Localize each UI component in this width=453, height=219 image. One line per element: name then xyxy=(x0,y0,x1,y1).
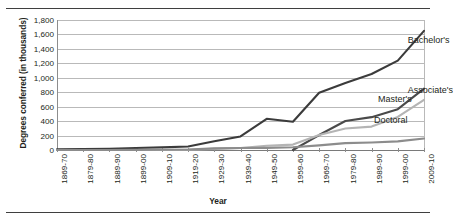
series-label-associates: Associate's xyxy=(408,85,453,95)
x-tick-label: 1899-00 xyxy=(139,154,148,184)
series-label-masters: Master's xyxy=(378,94,412,104)
x-tick-mark xyxy=(424,148,425,152)
x-tick-label: 1929-30 xyxy=(217,154,226,184)
x-tick-label: 1879-80 xyxy=(86,154,95,184)
y-tick-label: 400 xyxy=(14,117,54,126)
x-tick-label: 1989-90 xyxy=(375,154,384,184)
y-tick-label: 600 xyxy=(14,102,54,111)
x-tick-label: 1969-70 xyxy=(322,154,331,184)
x-tick-label: 1999-00 xyxy=(401,154,410,184)
x-tick-label: 1939-40 xyxy=(244,154,253,184)
series-lines-group xyxy=(57,20,424,150)
x-tick-label: 1949-50 xyxy=(270,154,279,184)
x-tick-label: 2009-10 xyxy=(427,154,436,184)
top-divider-rule xyxy=(6,8,430,9)
plot-area: 02004006008001,0001,2001,4001,6001,800 1… xyxy=(57,20,424,150)
series-label-bachelors: Bachelor's xyxy=(408,35,450,45)
y-tick-label: 1,200 xyxy=(14,59,54,68)
y-tick-label: 800 xyxy=(14,88,54,97)
x-tick-label: 1979-80 xyxy=(349,154,358,184)
y-tick-label: 1,600 xyxy=(14,30,54,39)
x-tick-label: 1919-20 xyxy=(191,154,200,184)
x-tick-label: 1869-70 xyxy=(60,154,69,184)
series-label-doctoral: Doctoral xyxy=(374,115,408,125)
x-tick-labels-group: 1869-701879-801889-901899-001909-101919-… xyxy=(57,152,424,212)
x-tick-label: 1959-60 xyxy=(296,154,305,184)
y-tick-label: 200 xyxy=(14,131,54,140)
y-tick-label: 1,800 xyxy=(14,16,54,25)
x-tick-label: 1909-10 xyxy=(165,154,174,184)
y-tick-label: 1,000 xyxy=(14,73,54,82)
series-line-bachelors xyxy=(57,31,424,150)
y-tick-label: 0 xyxy=(14,146,54,155)
x-tick-label: 1889-90 xyxy=(113,154,122,184)
y-tick-label: 1,400 xyxy=(14,44,54,53)
bottom-divider-rule xyxy=(6,212,430,213)
